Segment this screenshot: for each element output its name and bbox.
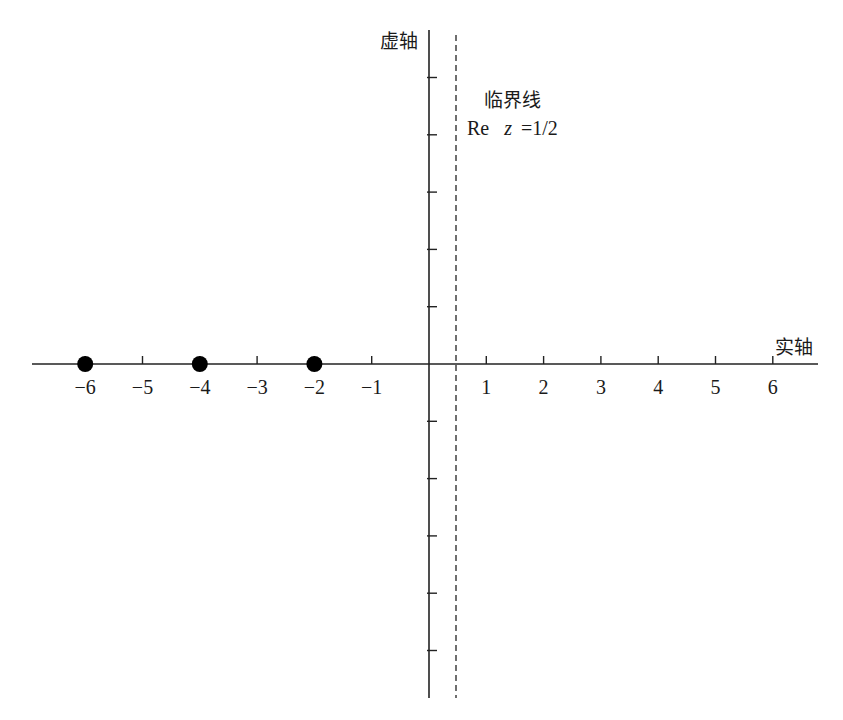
- x-tick-label: 4: [653, 376, 663, 398]
- y-axis-label: 虚轴: [380, 30, 418, 52]
- eq-re: Re: [467, 117, 489, 139]
- x-tick-label: −3: [246, 376, 267, 398]
- x-tick-label: 6: [768, 376, 778, 398]
- critical-line-equation: Re z =1/2: [467, 117, 558, 139]
- eq-z: z: [503, 117, 512, 139]
- zero-point-marker: [192, 356, 208, 372]
- x-axis-tick-labels: −6−5−4−3−2−1123456: [75, 376, 778, 398]
- x-tick-label: −4: [189, 376, 210, 398]
- x-tick-label: 1: [481, 376, 491, 398]
- x-tick-label: −6: [75, 376, 96, 398]
- x-tick-label: −1: [361, 376, 382, 398]
- x-tick-label: −2: [304, 376, 325, 398]
- x-axis-label: 实轴: [775, 336, 813, 358]
- x-tick-label: 5: [711, 376, 721, 398]
- eq-val: =1/2: [521, 117, 558, 139]
- zero-point-marker: [306, 356, 322, 372]
- complex-plane-chart: −6−5−4−3−2−1123456 虚轴 实轴 临界线 Re z =1/2: [0, 0, 843, 720]
- x-tick-label: 3: [596, 376, 606, 398]
- x-tick-label: −5: [132, 376, 153, 398]
- x-tick-label: 2: [539, 376, 549, 398]
- critical-line-title: 临界线: [484, 89, 541, 111]
- zero-point-marker: [77, 356, 93, 372]
